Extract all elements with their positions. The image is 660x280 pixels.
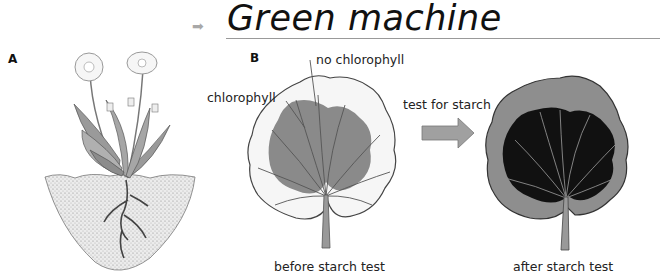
label-before-starch-test: before starch test: [274, 259, 385, 274]
diagram-illustration: [0, 0, 660, 280]
label-no-chlorophyll: no chlorophyll: [316, 52, 404, 67]
leaf-before-starch-test: [248, 60, 396, 248]
leaf-after-starch-test: [486, 76, 628, 250]
label-chlorophyll: chlorophyll: [207, 90, 276, 105]
test-arrow-icon: [422, 118, 474, 148]
label-test-for-starch: test for starch: [403, 97, 491, 112]
plant-illustration: [45, 52, 195, 270]
label-after-starch-test: after starch test: [513, 259, 613, 274]
